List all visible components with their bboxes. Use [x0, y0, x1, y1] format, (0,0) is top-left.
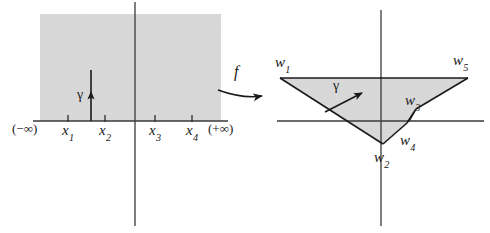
label-gamma-left: γ	[77, 88, 83, 102]
label-plus-infinity: (+∞)	[208, 122, 233, 135]
label-map-f: f	[234, 64, 238, 80]
label-x1-sub: 1	[69, 132, 74, 143]
label-w2-base: w	[374, 149, 384, 165]
label-w4-base: w	[400, 132, 410, 148]
label-x4-base: x	[186, 122, 193, 138]
label-w3: w3	[405, 93, 420, 111]
label-x3-sub: 3	[156, 132, 161, 143]
label-x3-base: x	[149, 122, 156, 138]
label-minus-infinity: (−∞)	[12, 122, 37, 135]
label-w5: w5	[453, 53, 468, 71]
label-w5-sub: 5	[463, 62, 468, 73]
label-w3-base: w	[405, 92, 415, 108]
label-gamma-right: γ	[333, 79, 339, 93]
triangle-region-shading	[280, 78, 468, 144]
label-x2-sub: 2	[106, 132, 111, 143]
left-panel-group	[33, 2, 228, 226]
label-x3: x3	[149, 123, 161, 141]
label-w2-sub: 2	[384, 159, 389, 170]
label-x2-base: x	[99, 122, 106, 138]
label-w1-base: w	[275, 54, 285, 70]
label-x4: x4	[186, 123, 198, 141]
label-w5-base: w	[453, 52, 463, 68]
label-w1-sub: 1	[285, 64, 290, 75]
label-w4-sub: 4	[410, 142, 415, 153]
label-x1-base: x	[62, 122, 69, 138]
label-w4: w4	[400, 133, 415, 151]
figure-canvas	[0, 0, 490, 233]
label-w3-sub: 3	[415, 102, 420, 113]
label-w2: w2	[374, 150, 389, 168]
map-arrow-curve	[218, 90, 262, 97]
upper-half-plane-shading	[40, 14, 221, 121]
label-x4-sub: 4	[193, 132, 198, 143]
label-x2: x2	[99, 123, 111, 141]
map-arrow-group	[218, 90, 262, 97]
figure-container: (−∞) x1 x2 x3 x4 (+∞) γ f w1 w2 w3 w4 w5…	[0, 0, 490, 233]
label-w1: w1	[275, 55, 290, 73]
label-x1: x1	[62, 123, 74, 141]
right-panel-group	[277, 10, 484, 226]
